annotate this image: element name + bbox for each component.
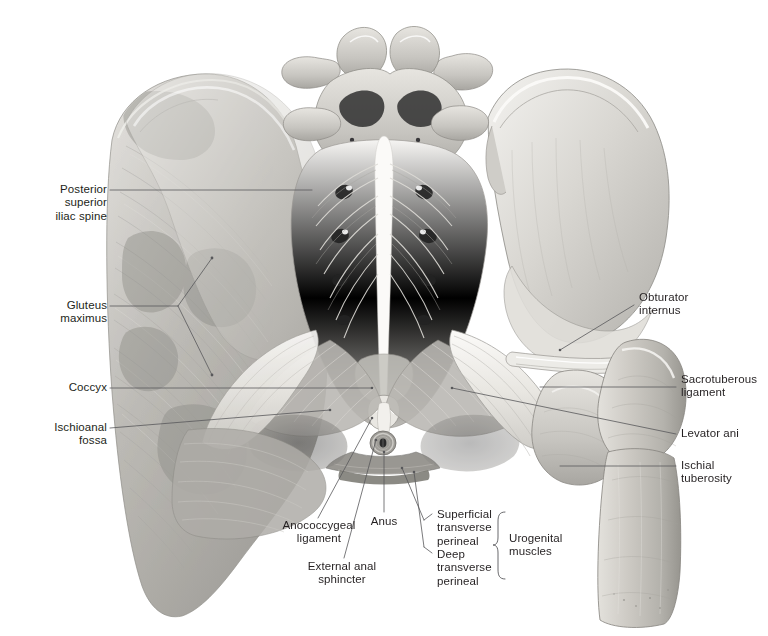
label-ischial-tuberosity: Ischial tuberosity [681, 459, 767, 486]
right-ilium [486, 69, 669, 368]
leader-superficial-transverse-perineal [424, 514, 432, 520]
anatomical-figure: Posterior superior iliac spine Gluteus m… [0, 0, 768, 636]
leader-deep-transverse-perineal [424, 547, 432, 553]
label-urogenital-muscles: Urogenital muscles [509, 532, 605, 559]
label-anus: Anus [358, 515, 410, 528]
right-femur [598, 339, 686, 627]
label-posterior-superior-iliac-spine: Posterior superior iliac spine [3, 183, 107, 223]
label-sacrotuberous-ligament: Sacrotuberous ligament [681, 373, 767, 400]
label-coccyx: Coccyx [3, 381, 107, 394]
label-levator-ani: Levator ani [681, 427, 767, 440]
anatomy-illustration [0, 0, 768, 636]
anus [380, 439, 387, 448]
anococcygeal-ligament [378, 403, 391, 436]
label-gluteus-maximus: Gluteus maximus [3, 299, 107, 326]
label-obturator-internus: Obturator internus [639, 291, 765, 318]
label-ischioanal-fossa: Ischioanal fossa [3, 421, 107, 448]
label-external-anal-sphincter: External anal sphincter [288, 560, 396, 587]
